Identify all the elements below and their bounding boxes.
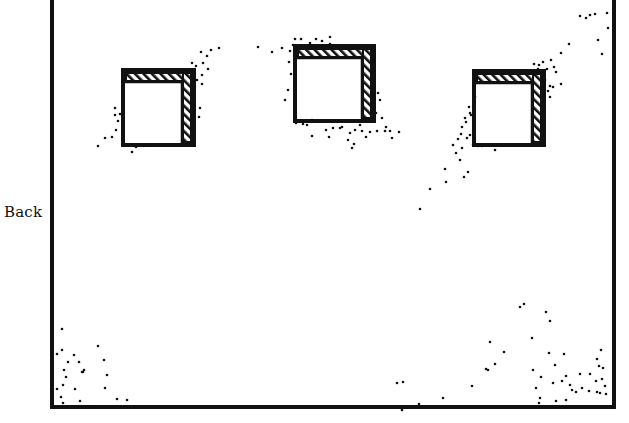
particle-dot — [384, 130, 387, 133]
particle-dot — [552, 86, 555, 89]
particle-dot — [74, 388, 77, 391]
particle-dot — [467, 171, 470, 174]
particle-dot — [287, 89, 290, 92]
particle-dot — [62, 402, 65, 405]
hatched-band-top — [298, 49, 371, 57]
particle-dot — [111, 136, 114, 139]
hatched-band-right — [183, 73, 191, 142]
particle-dot — [555, 71, 558, 74]
window-group — [123, 46, 544, 145]
particle-dot — [481, 145, 484, 148]
particle-dot — [541, 73, 544, 76]
particle-dot — [114, 114, 117, 117]
particle-dot — [61, 328, 64, 331]
particle-dot — [560, 83, 563, 86]
particle-dot — [67, 361, 70, 364]
particle-dot — [588, 390, 591, 393]
particle-dot — [552, 382, 555, 385]
particle-dot — [568, 43, 571, 46]
particle-dot — [281, 47, 284, 50]
particle-dot — [126, 399, 129, 402]
hatched-band-right — [533, 74, 541, 142]
particle-dot — [191, 62, 194, 65]
particle-dot — [461, 126, 464, 129]
particle-dot — [218, 47, 221, 50]
particle-dot — [465, 121, 468, 124]
particle-dot — [519, 306, 522, 309]
particle-dot — [389, 130, 392, 133]
particle-dot — [598, 365, 601, 368]
particle-dot — [589, 14, 592, 17]
particle-dot — [597, 39, 600, 42]
particle-dot — [537, 68, 540, 71]
particle-dot — [145, 144, 148, 147]
particle-dot — [131, 151, 134, 154]
particle-dot — [325, 129, 328, 132]
particle-dot — [555, 400, 558, 403]
particle-dot — [549, 85, 552, 88]
particle-dot — [104, 137, 107, 140]
particle-dot — [560, 52, 563, 55]
particle-dot — [65, 376, 68, 379]
particle-dot — [487, 369, 490, 372]
particle-dot — [135, 146, 138, 149]
particle-dot — [549, 320, 552, 323]
particle-dot — [302, 123, 305, 126]
particle-dot — [199, 107, 202, 110]
particle-dot — [607, 27, 610, 30]
particle-dot — [538, 64, 541, 67]
particle-dot — [538, 402, 541, 405]
particle-dot — [292, 44, 295, 47]
particle-dot — [321, 40, 324, 43]
hatched-band-top — [126, 73, 191, 81]
particle-dot — [295, 122, 298, 125]
particle-dot — [547, 90, 550, 93]
particle-dot — [571, 389, 574, 392]
particle-dot — [311, 135, 314, 138]
particle-dot — [60, 396, 63, 399]
particle-dot — [477, 145, 480, 148]
particle-dot — [565, 375, 568, 378]
particle-dot — [329, 43, 332, 46]
particle-dot — [463, 176, 466, 179]
particle-dot — [468, 106, 471, 109]
particle-dot — [561, 380, 564, 383]
particle-dot — [601, 378, 604, 381]
particle-dot — [257, 46, 260, 49]
particle-dot — [444, 168, 447, 171]
particle-dot — [594, 13, 597, 16]
particle-dot — [544, 79, 547, 82]
window-right — [474, 71, 544, 145]
particle-dot — [581, 387, 584, 390]
particle-dot — [469, 112, 472, 115]
particle-dot — [474, 96, 477, 99]
particle-dot — [73, 354, 76, 357]
particle-dot — [365, 136, 368, 139]
hatched-band-top — [477, 74, 541, 82]
particle-dot — [398, 131, 401, 134]
particle-dot — [532, 369, 535, 372]
particle-dot — [385, 126, 388, 129]
particle-dot — [542, 61, 545, 64]
particle-dot — [579, 15, 582, 18]
particle-dot — [191, 70, 194, 73]
particle-dot — [306, 124, 309, 127]
particle-dot — [599, 392, 602, 395]
particle-dot — [104, 387, 107, 390]
particle-dot — [97, 345, 100, 348]
particle-dot — [550, 59, 553, 62]
particle-dot — [549, 96, 552, 99]
particle-dot — [602, 367, 605, 370]
particle-dot — [381, 117, 384, 120]
particle-dot — [61, 349, 64, 352]
particle-dot — [117, 120, 120, 123]
particle-dot — [359, 124, 362, 127]
particle-dot — [290, 73, 293, 76]
particle-dot — [106, 374, 109, 377]
particle-dot — [605, 393, 608, 396]
particle-dot — [459, 159, 462, 162]
particle-dot — [533, 63, 536, 66]
particle-dot — [369, 131, 372, 134]
particle-dot — [114, 107, 117, 110]
particle-dot — [97, 145, 100, 148]
